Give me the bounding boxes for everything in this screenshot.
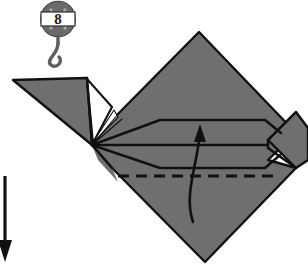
- pulley-rivet-icon: [49, 8, 52, 11]
- step-badge-pulley-hook: 8: [41, 2, 75, 67]
- pulley-rivet-icon: [63, 26, 66, 29]
- origami-illustration: 8: [0, 0, 308, 264]
- step-number-label: 8: [54, 11, 62, 27]
- large-gray-diamond: [92, 32, 296, 262]
- hook-icon: [50, 43, 61, 66]
- pulley-rivet-icon: [49, 26, 52, 29]
- origami-diagram: 8: [0, 0, 308, 264]
- straight-down-arrow: [0, 176, 12, 262]
- pulley-rivet-icon: [63, 8, 66, 11]
- left-triangular-flap: [13, 78, 92, 145]
